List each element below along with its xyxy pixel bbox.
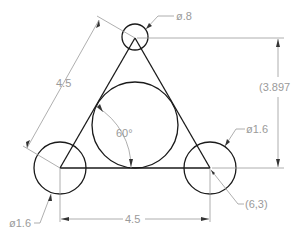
leader-line [34,194,51,223]
arrowhead [276,159,280,167]
arrowhead [201,217,209,221]
arrowhead [61,217,69,221]
triangle [60,38,210,168]
vertex-coordinate-label: (6,3) [245,198,268,210]
cad-drawing: 4.5 4.5 (3.897 60° ø.8 ø1.6 [0,0,298,235]
side-length-left-label: 4.5 [56,77,71,89]
extension-line [97,16,135,38]
leader-line [146,16,174,29]
height-label: (3.897 [259,81,290,93]
side-length-bottom-label: 4.5 [125,213,140,225]
inscribed-circle [92,82,178,168]
left-side-dimension [23,16,135,168]
left-circle-diameter-label: ø1.6 [9,217,31,229]
left-circle-leader [34,194,52,223]
top-circle-leader [146,16,174,29]
top-circle [122,24,148,50]
right-circle-diameter-label: ø1.6 [246,123,268,135]
height-dimension [137,38,284,168]
top-circle-diameter-label: ø.8 [176,10,192,22]
angle-label: 60° [116,127,133,139]
right-circle-leader [225,129,245,146]
arrowhead [48,194,52,201]
arrowhead [276,39,280,47]
arrowhead [129,159,133,167]
